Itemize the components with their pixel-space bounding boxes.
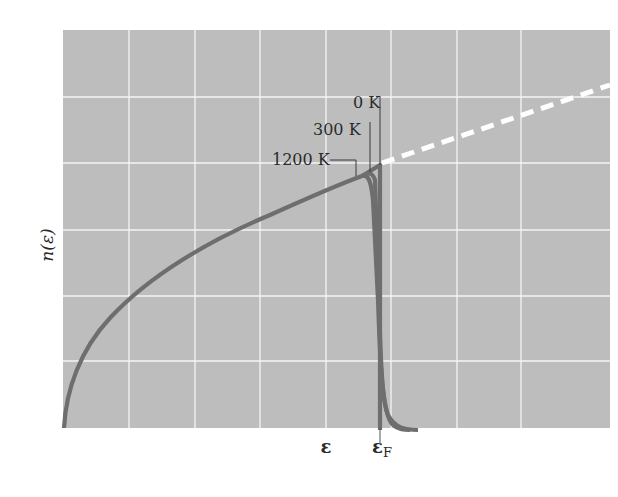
fermi-subscript: F [383,445,392,460]
x-axis-label: ε [321,436,332,457]
label-1200k: 1200 K [272,150,331,169]
y-axis-label: n(ε) [37,228,57,261]
fermi-energy-label: εF [372,436,392,460]
plot-area [63,30,610,428]
fermi-dirac-chart: 0 K 300 K 1200 K n(ε) ε εF [0,0,618,497]
label-300k: 300 K [313,120,362,139]
fermi-symbol: ε [372,436,383,457]
label-0k: 0 K [353,93,381,112]
